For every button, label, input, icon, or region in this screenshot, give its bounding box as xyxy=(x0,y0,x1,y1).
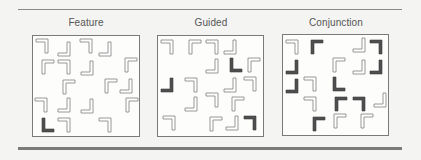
distractor-l-shape-icon xyxy=(304,77,316,91)
distractor-l-shape-icon xyxy=(99,42,111,56)
distractor-l-shape-icon xyxy=(161,40,173,54)
panel-label-feature: Feature xyxy=(32,17,140,28)
distractor-l-shape-icon xyxy=(163,116,175,130)
distractor-l-shape-icon xyxy=(36,39,48,53)
distractor-l-shape-icon xyxy=(224,40,236,54)
target-l-shape-icon xyxy=(353,97,365,111)
distractor-l-shape-icon xyxy=(206,59,218,73)
distractor-l-shape-icon xyxy=(185,78,197,92)
distractor-l-shape-icon xyxy=(58,42,70,56)
distractor-l-shape-icon xyxy=(105,79,117,93)
target-l-shape-icon xyxy=(244,116,256,130)
distractor-l-shape-icon xyxy=(244,77,256,91)
target-l-shape-icon xyxy=(335,97,347,111)
distractor-l-shape-icon xyxy=(206,40,218,54)
top-rule xyxy=(18,9,402,10)
stimulus-field xyxy=(158,36,265,138)
distractor-l-shape-icon xyxy=(42,60,54,74)
bottom-rule xyxy=(18,147,402,150)
target-l-shape-icon xyxy=(286,79,298,93)
distractor-l-shape-icon xyxy=(353,60,365,74)
distractor-l-shape-icon xyxy=(232,97,244,111)
panel-guided xyxy=(157,35,264,137)
distractor-l-shape-icon xyxy=(125,58,137,72)
distractor-l-shape-icon xyxy=(120,79,132,93)
panel-conjunction xyxy=(282,34,389,136)
panel-label-guided: Guided xyxy=(157,17,265,28)
target-l-shape-icon xyxy=(311,40,323,54)
distractor-l-shape-icon xyxy=(126,98,138,112)
distractor-l-shape-icon xyxy=(80,39,92,53)
distractor-l-shape-icon xyxy=(353,38,365,52)
distractor-l-shape-icon xyxy=(224,78,236,92)
distractor-l-shape-icon xyxy=(189,40,201,54)
panel-label-conjunction: Conjunction xyxy=(282,17,390,28)
distractor-l-shape-icon xyxy=(304,97,316,111)
distractor-l-shape-icon xyxy=(248,58,260,72)
distractor-l-shape-icon xyxy=(58,60,70,74)
target-l-shape-icon xyxy=(313,117,325,131)
distractor-l-shape-icon xyxy=(58,118,70,132)
panel-feature xyxy=(32,35,140,137)
stimulus-field xyxy=(33,36,141,138)
distractor-l-shape-icon xyxy=(99,118,111,132)
target-l-shape-icon xyxy=(286,60,298,74)
distractor-l-shape-icon xyxy=(58,98,70,112)
distractor-l-shape-icon xyxy=(226,116,238,130)
target-l-shape-icon xyxy=(333,77,345,91)
distractor-l-shape-icon xyxy=(81,99,93,113)
target-l-shape-icon xyxy=(370,40,382,54)
distractor-l-shape-icon xyxy=(361,114,373,128)
distractor-l-shape-icon xyxy=(206,93,218,107)
target-l-shape-icon xyxy=(370,60,382,74)
target-l-shape-icon xyxy=(42,118,54,132)
distractor-l-shape-icon xyxy=(286,40,298,54)
distractor-l-shape-icon xyxy=(185,97,197,111)
distractor-l-shape-icon xyxy=(374,93,386,107)
distractor-l-shape-icon xyxy=(35,98,47,112)
distractor-l-shape-icon xyxy=(81,61,93,75)
distractor-l-shape-icon xyxy=(334,114,346,128)
target-l-shape-icon xyxy=(230,58,242,72)
stimulus-field xyxy=(283,35,390,137)
target-l-shape-icon xyxy=(161,78,173,92)
distractor-l-shape-icon xyxy=(63,80,75,94)
distractor-l-shape-icon xyxy=(333,58,345,72)
distractor-l-shape-icon xyxy=(210,117,222,131)
